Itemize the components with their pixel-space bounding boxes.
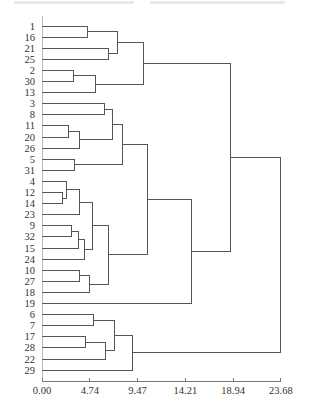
merge-link bbox=[42, 190, 79, 215]
merge-link bbox=[42, 200, 191, 304]
merge-link bbox=[87, 32, 118, 54]
dendrogram-links bbox=[42, 26, 281, 370]
merge-link bbox=[42, 240, 85, 259]
merge-link bbox=[42, 76, 96, 93]
merge-link bbox=[42, 335, 132, 370]
leaf-label: 18 bbox=[25, 287, 36, 298]
x-tick-label: 23.68 bbox=[269, 385, 293, 396]
dendrogram-chart: 1162125230133811202653141214239321524102… bbox=[0, 0, 312, 415]
leaf-label: 2 bbox=[30, 65, 35, 76]
merge-link bbox=[144, 63, 231, 251]
leaf-label: 10 bbox=[25, 265, 36, 276]
merge-link bbox=[42, 337, 86, 348]
merge-link bbox=[42, 193, 63, 204]
leaf-label: 4 bbox=[30, 176, 36, 187]
leaf-label: 31 bbox=[25, 165, 36, 176]
leaf-labels: 1162125230133811202653141214239321524102… bbox=[25, 21, 36, 376]
leaf-label: 12 bbox=[25, 187, 36, 198]
x-tick-label: 14.21 bbox=[174, 385, 198, 396]
merge-link bbox=[42, 226, 72, 237]
leaf-label: 8 bbox=[30, 109, 35, 120]
x-tick-label: 0.00 bbox=[33, 385, 51, 396]
merge-link bbox=[42, 104, 105, 115]
leaf-label: 17 bbox=[25, 331, 36, 342]
merge-link bbox=[96, 43, 144, 85]
merge-link bbox=[42, 48, 109, 59]
leaf-label: 7 bbox=[30, 320, 35, 331]
leaf-label: 24 bbox=[25, 254, 36, 265]
leaf-label: 27 bbox=[25, 276, 36, 287]
merge-link bbox=[42, 231, 78, 248]
merge-link bbox=[42, 315, 94, 326]
leaf-label: 22 bbox=[25, 354, 36, 365]
leaf-label: 1 bbox=[30, 21, 35, 32]
leaf-label: 6 bbox=[30, 309, 35, 320]
leaf-label: 30 bbox=[25, 76, 36, 87]
x-tick-label: 18.94 bbox=[221, 385, 245, 396]
x-tick-label: 4.74 bbox=[81, 385, 100, 396]
merge-link bbox=[42, 70, 74, 81]
leaf-label: 14 bbox=[25, 198, 36, 209]
merge-link bbox=[42, 181, 66, 198]
leaf-label: 13 bbox=[25, 87, 36, 98]
merge-link bbox=[94, 320, 115, 351]
merge-link bbox=[42, 276, 89, 293]
merge-link bbox=[132, 158, 281, 353]
leaf-label: 20 bbox=[25, 132, 36, 143]
leaf-label: 28 bbox=[25, 342, 36, 353]
merge-link bbox=[42, 126, 68, 137]
leaf-label: 29 bbox=[25, 365, 36, 376]
leaf-label: 21 bbox=[25, 43, 36, 54]
leaf-label: 11 bbox=[25, 120, 35, 131]
merge-link bbox=[79, 202, 93, 249]
merge-link bbox=[42, 131, 79, 148]
leaf-label: 15 bbox=[25, 243, 36, 254]
x-axis: 0.004.749.4714.2118.9423.68 bbox=[33, 16, 293, 396]
leaf-label: 19 bbox=[25, 298, 36, 309]
merge-link bbox=[42, 26, 87, 37]
leaf-label: 5 bbox=[30, 154, 35, 165]
leaf-label: 16 bbox=[25, 32, 36, 43]
merge-link bbox=[75, 125, 122, 165]
merge-link bbox=[79, 109, 112, 140]
merge-link bbox=[89, 226, 109, 284]
leaf-label: 3 bbox=[30, 98, 35, 109]
merge-link bbox=[109, 145, 148, 255]
leaf-label: 26 bbox=[25, 143, 36, 154]
merge-link bbox=[42, 342, 106, 359]
leaf-label: 32 bbox=[25, 231, 36, 242]
leaf-label: 25 bbox=[25, 54, 36, 65]
merge-link bbox=[42, 270, 79, 281]
leaf-label: 23 bbox=[25, 209, 36, 220]
merge-link bbox=[42, 159, 75, 170]
leaf-label: 9 bbox=[30, 220, 35, 231]
x-tick-label: 9.47 bbox=[128, 385, 146, 396]
